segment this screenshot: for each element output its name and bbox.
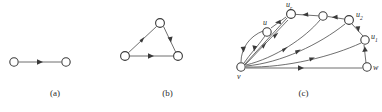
arrowhead-u2-to-u1 bbox=[355, 26, 360, 32]
node-n2 bbox=[62, 58, 70, 66]
panel-b: (b) bbox=[110, 0, 225, 112]
vertex-label-u2: u2 bbox=[356, 11, 363, 21]
node-u1 bbox=[361, 36, 369, 44]
arrowhead-top-right bbox=[168, 36, 173, 42]
vertex-label-v: v bbox=[237, 73, 241, 81]
arrowhead-u2-to-um bbox=[332, 15, 338, 20]
arrowhead-w-to-u1 bbox=[362, 47, 368, 52]
node-n1 bbox=[10, 58, 18, 66]
edge-v-to-u2 bbox=[246, 24, 345, 66]
arrowhead-n1-n2 bbox=[37, 59, 43, 65]
panel-b-graph bbox=[110, 0, 225, 88]
vertex-label-u: u bbox=[263, 19, 267, 27]
caption-b: (b) bbox=[110, 88, 225, 98]
node-v bbox=[237, 63, 245, 71]
arrowhead-ur-to-v bbox=[273, 33, 278, 39]
figure-directed-graphs: (a) (b) bbox=[0, 0, 382, 112]
panel-c: v u ur u2 u1 w (c) bbox=[225, 0, 382, 112]
vertex-label-ur: ur bbox=[286, 1, 292, 11]
caption-c: (c) bbox=[225, 88, 382, 98]
node-top bbox=[156, 19, 165, 28]
panel-a-graph bbox=[0, 0, 110, 88]
arrowhead-um-to-ur bbox=[302, 12, 308, 17]
arrowhead-v-to-u1 bbox=[309, 57, 315, 61]
arrowhead-v-to-u-outer bbox=[241, 47, 246, 53]
node-u2 bbox=[345, 16, 354, 25]
node-left bbox=[121, 52, 130, 61]
vertex-label-u2-sub: 2 bbox=[360, 15, 363, 21]
vertex-label-u1-sub: 1 bbox=[375, 37, 378, 43]
edge-v-to-um bbox=[246, 20, 320, 65]
node-right bbox=[174, 52, 183, 61]
vertex-label-ur-sub: r bbox=[290, 5, 292, 11]
arrowhead-v-to-um bbox=[282, 47, 288, 53]
arrowhead-v-to-w bbox=[298, 65, 304, 71]
node-w bbox=[363, 63, 371, 71]
panel-a: (a) bbox=[0, 0, 110, 112]
arrowhead-left-right bbox=[148, 53, 154, 59]
caption-a: (a) bbox=[0, 88, 110, 98]
vertex-label-u1: u1 bbox=[371, 33, 378, 43]
vertex-label-w: w bbox=[373, 64, 378, 72]
arrowhead-v-to-u2 bbox=[295, 50, 301, 55]
node-u bbox=[263, 28, 271, 36]
node-um bbox=[319, 12, 327, 20]
arrowhead-ur-to-u bbox=[275, 20, 281, 24]
